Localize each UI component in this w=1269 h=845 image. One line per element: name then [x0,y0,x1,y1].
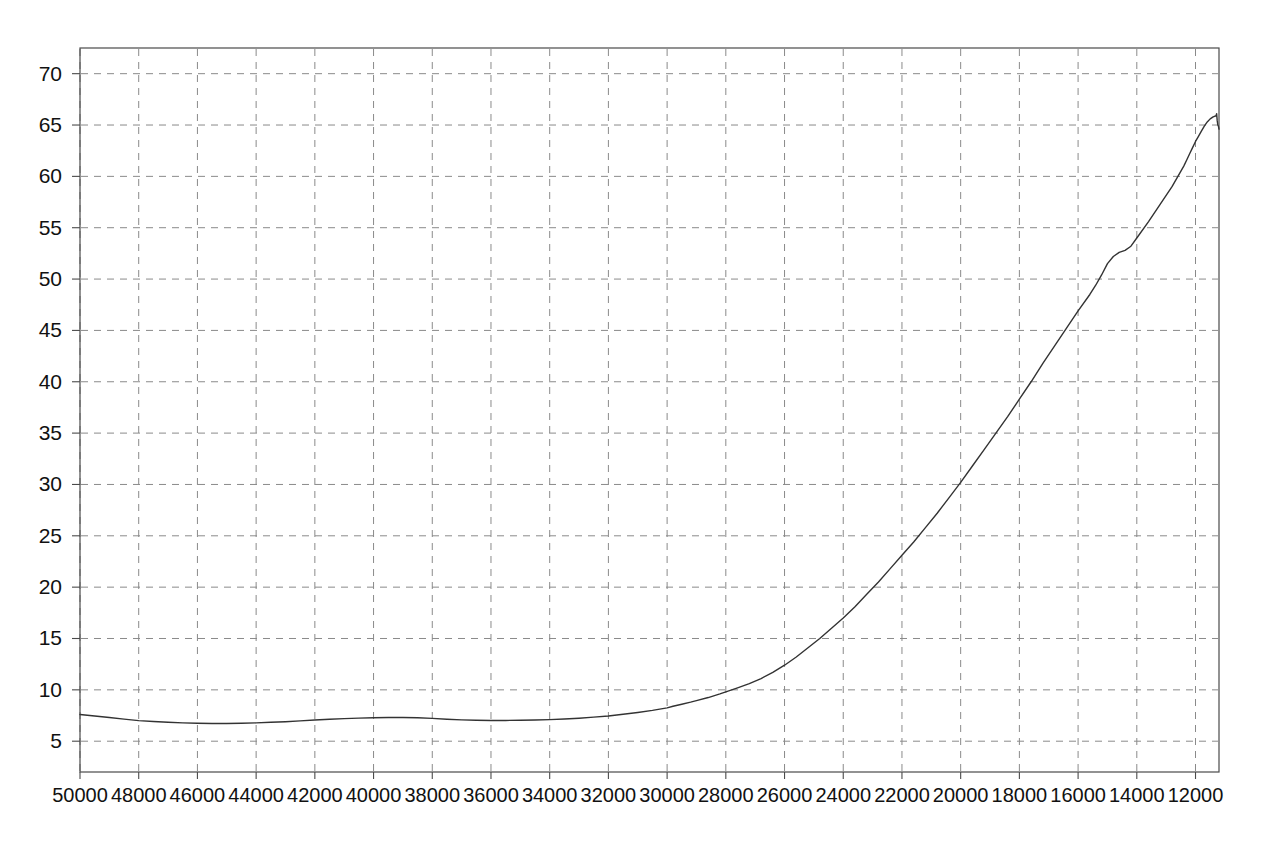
x-axis-tick-label: 50000 [52,784,108,807]
y-axis-tick-label: 70 [0,62,62,86]
plot-frame [80,48,1219,772]
x-axis-tick-label: 20000 [933,784,989,807]
y-axis-tick-label: 10 [0,678,62,702]
x-axis-tick-label: 16000 [1050,784,1106,807]
x-axis-tick-label: 38000 [404,784,460,807]
y-axis-tick-label: 35 [0,421,62,445]
x-axis-tick-label: 32000 [581,784,637,807]
y-axis-tick-label: 5 [0,729,62,753]
axis-tick-marks [72,74,1196,779]
x-axis-tick-label: 40000 [346,784,402,807]
y-axis-tick-label: 25 [0,524,62,548]
x-axis-tick-label: 18000 [992,784,1048,807]
data-line-curve [80,114,1219,724]
data-series-layer [80,114,1219,724]
grid-lines [80,49,1218,771]
y-axis-tick-label: 30 [0,472,62,496]
y-axis-tick-label: 15 [0,626,62,650]
x-axis-tick-label: 26000 [757,784,813,807]
y-axis-tick-label: 60 [0,164,62,188]
x-axis-tick-label: 28000 [698,784,754,807]
y-axis-tick-label: 40 [0,370,62,394]
x-axis-tick-label: 22000 [874,784,930,807]
x-axis-tick-label: 48000 [111,784,167,807]
chart-figure: 510152025303540455055606570 500004800046… [0,0,1269,845]
chart-plot-area [0,0,1269,845]
x-axis-tick-label: 30000 [639,784,695,807]
x-axis-tick-label: 24000 [815,784,871,807]
x-axis-tick-label: 14000 [1109,784,1165,807]
y-axis-tick-label: 20 [0,575,62,599]
y-axis-tick-label: 55 [0,216,62,240]
x-axis-tick-label: 34000 [522,784,578,807]
x-axis-tick-label: 12000 [1168,784,1224,807]
x-axis-tick-label: 42000 [287,784,343,807]
x-axis-tick-label: 46000 [170,784,226,807]
y-axis-tick-label: 50 [0,267,62,291]
x-axis-tick-label: 36000 [463,784,519,807]
y-axis-tick-label: 45 [0,318,62,342]
y-axis-tick-label: 65 [0,113,62,137]
x-axis-tick-label: 44000 [228,784,284,807]
